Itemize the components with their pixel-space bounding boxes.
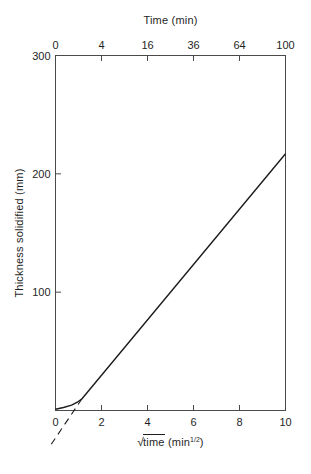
x-tick-label: 10 (279, 416, 291, 428)
x-axis-title-unit: (min (165, 436, 190, 448)
series-thickness-solidified (56, 154, 286, 410)
top-tick-label: 36 (187, 39, 199, 51)
chart-plot: 024681004163664100100200300 (0, 0, 311, 474)
top-tick-label: 100 (276, 39, 294, 51)
y-tick-label: 200 (32, 168, 50, 180)
top-tick-label: 4 (98, 39, 104, 51)
x-axis-title-close: ) (200, 436, 204, 448)
x-tick-label: 0 (52, 416, 58, 428)
x-axis-title-exponent: 1/2 (190, 436, 200, 443)
x-axis-title-radicand: time (143, 434, 165, 448)
top-tick-label: 16 (141, 39, 153, 51)
x-tick-label: 4 (144, 416, 150, 428)
y-tick-label: 100 (32, 286, 50, 298)
x-tick-label: 8 (236, 416, 242, 428)
x-tick-label: 6 (190, 416, 196, 428)
x-tick-label: 2 (98, 416, 104, 428)
top-tick-label: 64 (233, 39, 245, 51)
solidification-thickness-figure: Time (min) Thickness solidified (mm) 024… (0, 0, 311, 474)
top-tick-label: 0 (52, 39, 58, 51)
axis-frame (56, 56, 286, 411)
y-tick-label: 300 (32, 50, 50, 62)
x-axis-title: √time (min1/2) (55, 435, 286, 449)
